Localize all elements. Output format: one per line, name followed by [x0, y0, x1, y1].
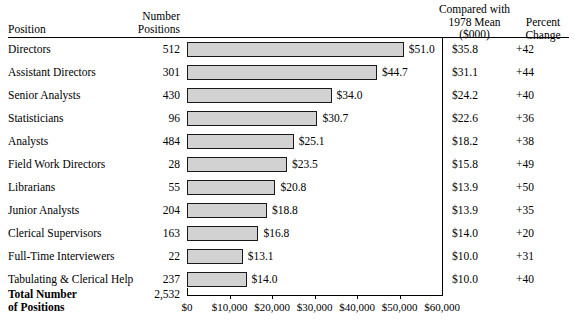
row-number-positions: 55	[110, 176, 180, 199]
bar-value-label: $30.7	[322, 107, 348, 130]
header-number-positions: Number Positions	[120, 10, 180, 35]
x-axis-tick	[315, 295, 316, 299]
table-row: Analysts484$25.1$18.2+38	[0, 130, 575, 153]
row-position-label: Directors	[8, 38, 51, 61]
table-row: Senior Analysts430$34.0$24.2+40	[0, 84, 575, 107]
bar	[187, 42, 404, 57]
row-position-label: Senior Analysts	[8, 84, 81, 107]
bar	[187, 157, 287, 172]
bar-value-label: $13.1	[248, 245, 274, 268]
bar	[187, 272, 247, 287]
row-number-positions: 22	[110, 245, 180, 268]
x-axis-tick-label: $60,000	[410, 301, 474, 313]
bar	[187, 203, 267, 218]
row-1978-mean: $22.6	[452, 107, 498, 130]
row-percent-change: +42	[516, 38, 562, 61]
row-1978-mean: $13.9	[452, 199, 498, 222]
row-percent-change: +49	[516, 153, 562, 176]
table-row: Statisticians96$30.7$22.6+36	[0, 107, 575, 130]
row-1978-mean: $10.0	[452, 245, 498, 268]
bar	[187, 65, 377, 80]
table-row: Full-Time Interviewers22$13.1$10.0+31	[0, 245, 575, 268]
row-percent-change: +35	[516, 199, 562, 222]
row-number-positions: 28	[110, 153, 180, 176]
bar-value-label: $34.0	[337, 84, 363, 107]
bar	[187, 88, 332, 103]
row-position-label: Full-Time Interviewers	[8, 245, 115, 268]
table-row: Directors512$51.0$35.8+42	[0, 38, 575, 61]
bar	[187, 111, 317, 126]
row-1978-mean: $35.8	[452, 38, 498, 61]
row-percent-change: +40	[516, 268, 562, 291]
row-1978-mean: $14.0	[452, 222, 498, 245]
row-position-label: Analysts	[8, 130, 48, 153]
bar	[187, 180, 275, 195]
row-percent-change: +44	[516, 61, 562, 84]
bar-value-label: $18.8	[272, 199, 298, 222]
bar-value-label: $23.5	[292, 153, 318, 176]
row-number-positions: 512	[110, 38, 180, 61]
row-number-positions: 430	[110, 84, 180, 107]
x-axis-tick	[400, 295, 401, 299]
bar-value-label: $14.0	[252, 268, 278, 291]
row-number-positions: 204	[110, 199, 180, 222]
axis-cap-right	[442, 288, 443, 296]
bar	[187, 226, 258, 241]
row-1978-mean: $10.0	[452, 268, 498, 291]
table-row: Field Work Directors28$23.5$15.8+49	[0, 153, 575, 176]
bar-value-label: $16.8	[263, 222, 289, 245]
row-percent-change: +31	[516, 245, 562, 268]
total-label: Total Number of Positions	[8, 288, 77, 314]
row-position-label: Librarians	[8, 176, 55, 199]
bar-value-label: $20.8	[280, 176, 306, 199]
x-axis-tick	[230, 295, 231, 299]
table-row: Assistant Directors301$44.7$31.1+44	[0, 61, 575, 84]
row-position-label: Junior Analysts	[8, 199, 79, 222]
header-position: Position	[8, 23, 46, 36]
row-number-positions: 96	[110, 107, 180, 130]
row-1978-mean: $31.1	[452, 61, 498, 84]
bar	[187, 134, 294, 149]
chart-page: Position Number Positions Compared with …	[0, 0, 575, 326]
row-percent-change: +50	[516, 176, 562, 199]
table-row: Junior Analysts204$18.8$13.9+35	[0, 199, 575, 222]
row-percent-change: +20	[516, 222, 562, 245]
table-row: Tabulating & Clerical Help237$14.0$10.0+…	[0, 268, 575, 291]
bar-value-label: $25.1	[299, 130, 325, 153]
bar-value-label: $44.7	[382, 61, 408, 84]
row-1978-mean: $13.9	[452, 176, 498, 199]
row-number-positions: 484	[110, 130, 180, 153]
bar-value-label: $51.0	[409, 38, 435, 61]
row-number-positions: 301	[110, 61, 180, 84]
row-1978-mean: $24.2	[452, 84, 498, 107]
row-position-label: Statisticians	[8, 107, 64, 130]
table-row: Librarians55$20.8$13.9+50	[0, 176, 575, 199]
bar	[187, 249, 243, 264]
x-axis-tick	[272, 295, 273, 299]
table-row: Clerical Supervisors163$16.8$14.0+20	[0, 222, 575, 245]
row-position-label: Clerical Supervisors	[8, 222, 102, 245]
row-1978-mean: $18.2	[452, 130, 498, 153]
row-number-positions: 163	[110, 222, 180, 245]
header-compared-with-1978-mean: Compared with 1978 Mean ($000)	[437, 3, 512, 41]
row-position-label: Assistant Directors	[8, 61, 96, 84]
row-position-label: Field Work Directors	[8, 153, 105, 176]
total-count: 2,532	[110, 288, 180, 301]
row-percent-change: +40	[516, 84, 562, 107]
row-percent-change: +36	[516, 107, 562, 130]
row-percent-change: +38	[516, 130, 562, 153]
x-axis-tick	[357, 295, 358, 299]
row-1978-mean: $15.8	[452, 153, 498, 176]
